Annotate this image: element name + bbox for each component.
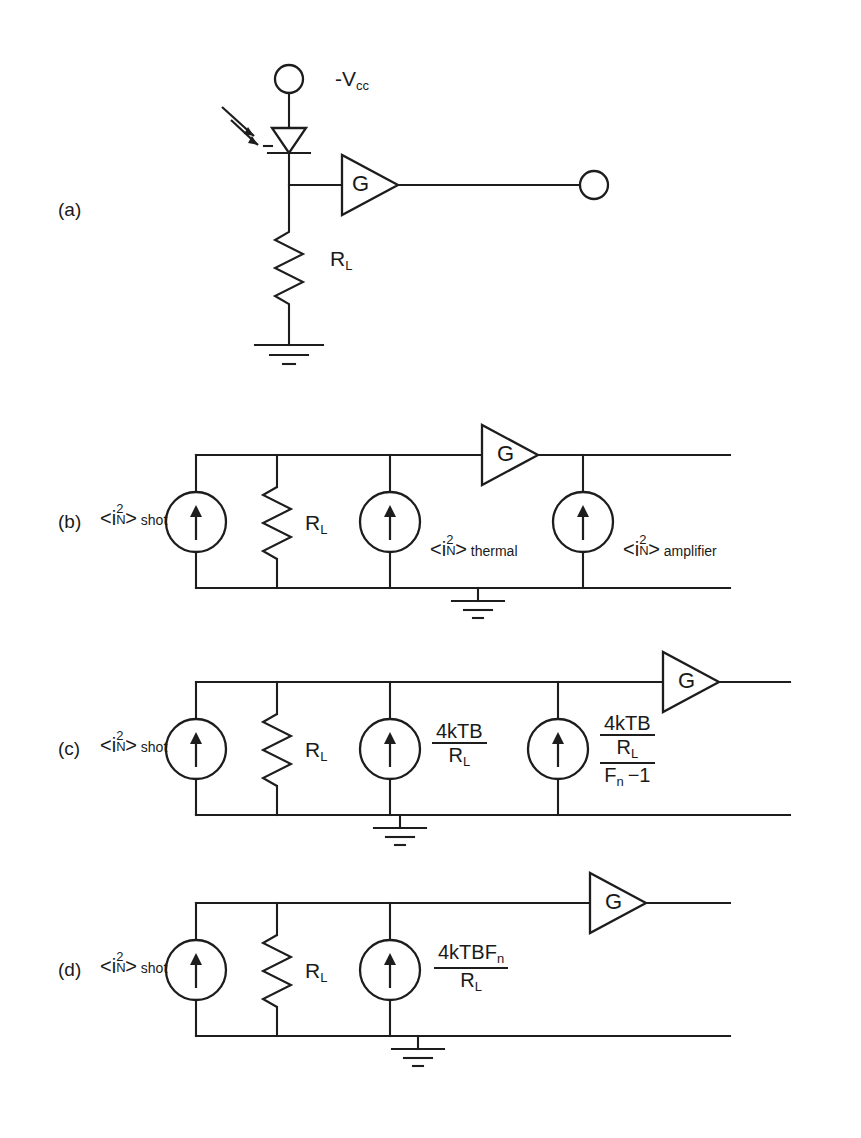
fraction-denominator-2: Fn−1: [600, 762, 655, 790]
load-resistor-label-c: RL: [305, 739, 327, 763]
den-sub: L: [475, 979, 482, 994]
load-resistor-label-text: R: [305, 959, 320, 982]
fraction-denominator: RL: [434, 967, 508, 995]
num-text: 4kTBF: [438, 941, 497, 963]
panel-tag-b: (b): [58, 512, 81, 531]
expression-amplifier-c: 4kTB RL Fn−1: [600, 712, 655, 790]
load-resistor-label-sub: L: [345, 258, 352, 273]
supply-label-a: -Vcc: [335, 68, 369, 92]
load-resistor-label-a: RL: [330, 248, 352, 272]
noise-current-symbol: i2N: [112, 735, 116, 755]
panel-tag-d: (d): [58, 960, 81, 979]
noise-sub: N: [639, 544, 648, 557]
load-resistor-label-text: R: [305, 738, 320, 761]
fraction-numerator: 4kTBFn: [434, 941, 508, 967]
noise-label-shot-b: <i2N>shot: [100, 508, 167, 528]
angle-close: >: [125, 507, 137, 529]
angle-close: >: [455, 538, 467, 560]
load-resistor-label-text: R: [330, 247, 345, 270]
noise-label-shot-d: <i2N>shot: [100, 956, 167, 976]
load-resistor-label-text: R: [305, 511, 320, 534]
load-resistor-label-sub: L: [320, 970, 327, 985]
den2-sub: n: [616, 774, 623, 789]
noise-tag: shot: [141, 739, 167, 755]
fraction-denominator: RL: [600, 734, 655, 762]
amplifier-gain-label-a: G: [352, 173, 369, 195]
den-text: R: [449, 744, 463, 766]
num-sub: n: [497, 951, 504, 966]
angle-open: <: [100, 507, 112, 529]
load-resistor-label-b: RL: [305, 512, 327, 536]
fraction-denominator: RL: [432, 742, 487, 770]
den-sub: L: [631, 747, 638, 762]
noise-tag: shot: [141, 512, 167, 528]
noise-current-symbol: i2N: [112, 508, 116, 528]
ground-symbol-b: [452, 588, 504, 618]
load-resistor-label-d: RL: [305, 960, 327, 984]
load-resistor-d: [263, 935, 291, 1007]
noise-current-symbol: i2N: [112, 956, 116, 976]
angle-close: >: [125, 734, 137, 756]
load-resistor-label-sub: L: [320, 749, 327, 764]
noise-tag: thermal: [471, 543, 518, 559]
load-resistor-label-sub: L: [320, 522, 327, 537]
noise-tag: amplifier: [664, 543, 717, 559]
den-sub: L: [463, 755, 470, 770]
panel-tag-c: (c): [58, 739, 80, 758]
photodiode-triangle: [272, 128, 306, 153]
angle-open: <: [430, 538, 442, 560]
noise-sub: N: [116, 961, 125, 974]
amplifier-gain-label-b: G: [497, 443, 514, 465]
den-text: R: [617, 736, 631, 758]
noise-label-thermal-b: <i2N>thermal: [430, 539, 518, 559]
panel-a-circuit: [222, 65, 608, 364]
noise-sub: N: [116, 740, 125, 753]
noise-sub: N: [116, 513, 125, 526]
fraction-numerator: 4kTB: [432, 720, 487, 742]
panel-b-circuit: [166, 425, 730, 618]
den2-tail: −1: [628, 764, 651, 786]
expression-thermal-c: 4kTB RL: [432, 720, 487, 770]
noise-sub: N: [446, 544, 455, 557]
den2-text: F: [604, 764, 616, 786]
angle-close: >: [125, 955, 137, 977]
amplifier-gain-label-d: G: [605, 891, 622, 913]
expression-combined-d: 4kTBFn RL: [434, 941, 508, 994]
amplifier-triangle-a: [342, 155, 398, 215]
noise-tag: shot: [141, 960, 167, 976]
load-resistor-b: [263, 487, 291, 559]
load-resistor-a: [275, 222, 303, 318]
angle-open: <: [100, 955, 112, 977]
noise-label-amplifier-b: <i2N>amplifier: [623, 539, 717, 559]
supply-label-text: -V: [335, 67, 356, 90]
output-terminal-node: [580, 171, 608, 199]
noise-label-shot-c: <i2N>shot: [100, 735, 167, 755]
load-resistor-c: [263, 714, 291, 786]
noise-current-symbol: i2N: [635, 539, 639, 559]
panel-tag-a: (a): [58, 200, 81, 219]
den-text: R: [460, 969, 474, 991]
supply-terminal-node: [275, 65, 303, 93]
ground-symbol-d: [392, 1036, 444, 1066]
amplifier-gain-label-c: G: [678, 670, 695, 692]
supply-label-sub: cc: [356, 78, 369, 93]
angle-open: <: [623, 538, 635, 560]
ground-symbol-c: [374, 815, 426, 845]
angle-close: >: [648, 538, 660, 560]
figure-canvas: (a) -Vcc G RL (b) <i2N>shot RL G <i2N>th…: [0, 0, 861, 1138]
optical-input-arrows: [222, 107, 258, 145]
fraction-numerator: 4kTB: [600, 712, 655, 734]
angle-open: <: [100, 734, 112, 756]
ground-symbol-a: [255, 345, 323, 364]
noise-current-symbol: i2N: [442, 539, 446, 559]
